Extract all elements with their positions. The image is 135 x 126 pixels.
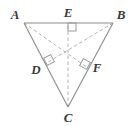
side-BC: [68, 23, 113, 107]
label-A: A: [10, 7, 20, 22]
label-F: F: [92, 60, 102, 75]
right-angle-at-E-icon: [68, 23, 76, 31]
label-E: E: [63, 5, 73, 20]
label-B: B: [116, 7, 126, 22]
right-angle-marks-group: [44, 23, 91, 69]
label-C: C: [64, 110, 73, 125]
label-D: D: [30, 62, 41, 77]
geometry-canvas: A B C D E F: [0, 0, 135, 126]
geometry-figure: A B C D E F: [0, 0, 135, 126]
altitude-BD: [45, 23, 113, 64]
